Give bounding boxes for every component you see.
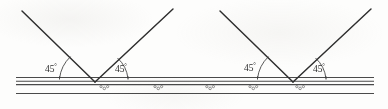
ray-1-incident-line bbox=[22, 11, 95, 82]
angle-label-left-vertex-right: 45° bbox=[115, 63, 127, 75]
arc-right-vertex-left-icon bbox=[258, 57, 269, 79]
angle-value: 45 bbox=[244, 63, 253, 73]
ray-2-incident-line bbox=[220, 11, 293, 82]
hatch-mark bbox=[206, 86, 215, 90]
layer-hatch-group bbox=[100, 86, 305, 90]
hatch-mark bbox=[100, 86, 109, 90]
angle-label-right-vertex-left: 45° bbox=[244, 62, 256, 74]
hatch-mark bbox=[249, 86, 258, 90]
arc-left-vertex-left-icon bbox=[60, 57, 71, 79]
degree-symbol: ° bbox=[253, 61, 256, 68]
hatch-mark bbox=[296, 86, 305, 90]
angle-label-right-vertex-right: 45° bbox=[313, 63, 325, 75]
diagram-canvas bbox=[0, 0, 388, 109]
hatch-mark bbox=[154, 86, 163, 90]
degree-symbol: ° bbox=[124, 62, 127, 69]
reflection-diagram-figure: 45° 45° 45° 45° bbox=[0, 0, 388, 109]
angle-label-left-vertex-left: 45° bbox=[45, 63, 57, 75]
degree-symbol: ° bbox=[54, 62, 57, 69]
angle-value: 45 bbox=[313, 64, 322, 74]
ray-2-reflected-line bbox=[293, 9, 371, 82]
degree-symbol: ° bbox=[322, 62, 325, 69]
surface-layer-group bbox=[16, 78, 374, 94]
angle-value: 45 bbox=[45, 64, 54, 74]
angle-value: 45 bbox=[115, 64, 124, 74]
ray-1-reflected-line bbox=[95, 9, 173, 82]
